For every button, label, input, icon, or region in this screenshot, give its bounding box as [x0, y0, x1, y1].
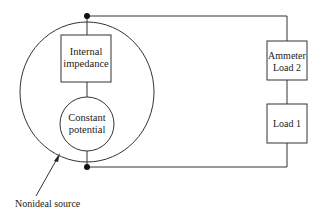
- load2-label: Load 2: [273, 62, 301, 73]
- nonideal-source-caption: Nonideal source: [15, 198, 81, 209]
- constant-potential-label-1: Constant: [68, 112, 105, 123]
- internal-impedance-label-2: impedance: [63, 58, 109, 69]
- internal-impedance-label-1: Internal: [70, 46, 103, 57]
- constant-potential-label-2: potential: [69, 124, 106, 135]
- bottom-terminal-dot: [84, 164, 90, 170]
- load1-label: Load 1: [273, 118, 301, 129]
- caption-pointer: [36, 157, 58, 196]
- circuit-diagram: Internal impedance Constant potential Am…: [0, 0, 327, 214]
- ammeter-label: Ammeter: [268, 50, 306, 61]
- top-terminal-dot: [84, 13, 90, 19]
